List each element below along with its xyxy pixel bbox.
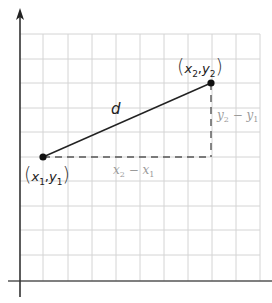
horizontal-difference-label: x2 − x1 [113, 163, 154, 179]
distance-label: d [111, 100, 121, 118]
point-1-label: (x1,y1) [24, 163, 70, 187]
distance-diagram: d (x2,y2) (x1,y1) x2 − x1 y2 − y1 [0, 0, 272, 303]
point-2 [207, 79, 214, 86]
vertical-difference-label: y2 − y1 [217, 108, 258, 124]
point-2-label: (x2,y2) [177, 55, 223, 79]
point-1 [39, 153, 46, 160]
diagram-canvas [0, 0, 272, 303]
